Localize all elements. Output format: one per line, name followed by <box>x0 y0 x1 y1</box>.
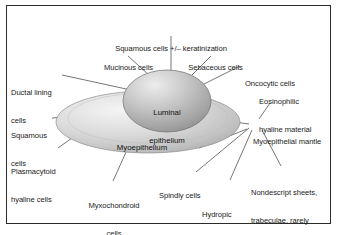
callout-squamous-cells-left-line1: Squamous <box>11 131 71 140</box>
callout-nondescript-sheets-line1: Nondescript sheets, <box>251 188 339 197</box>
callout-myxochondroid-cells: Myxochondroid cells <box>78 183 150 235</box>
callout-plasmacytoid-hyaline-cells: Plasmacytoid hyaline cells <box>11 149 83 223</box>
callout-ductal-lining-cells-line1: Ductal lining <box>11 88 71 97</box>
luminal-epithelium-label-line1: Luminal <box>131 108 203 117</box>
callout-nondescript-sheets-line2: trabeculae, rarely <box>251 216 339 225</box>
callout-nondescript-sheets: Nondescript sheets, trabeculae, rarely c… <box>251 170 339 235</box>
figure-root: Luminal epithelium Myoepithelium Squamou… <box>0 0 343 235</box>
leader-hydropic-clear-cells <box>230 130 252 180</box>
callout-myxochondroid-cells-line1: Myxochondroid <box>78 201 150 210</box>
callout-myxochondroid-cells-line2: cells <box>78 229 150 235</box>
callout-myoepithelial-mantle: Myoepithelial mantle <box>253 119 339 165</box>
callout-plasmacytoid-hyaline-cells-line2: hyaline cells <box>11 195 83 204</box>
myoepithelium-label: Myoepithelium <box>92 124 192 171</box>
callout-myoepithelial-mantle-line1: Myoepithelial mantle <box>253 137 339 146</box>
myoepithelium-label-text: Myoepithelium <box>92 143 192 152</box>
callout-plasmacytoid-hyaline-cells-line1: Plasmacytoid <box>11 167 83 176</box>
callout-eosinophilic-hyaline-material-line1: Eosinophilic <box>259 97 339 106</box>
